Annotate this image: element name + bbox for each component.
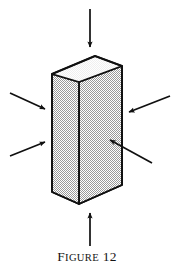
arrow-left-upper [10,93,45,109]
caption-label-rest: IGURE [65,252,99,263]
right-front-face [79,66,122,204]
figure-illustration [0,0,174,270]
caption-initial: F [57,249,65,264]
arrow-right-upper [129,96,170,112]
left-side-face [52,74,79,204]
rectangular-prism [52,56,122,204]
figure-caption: FIGURE 12 [0,248,174,264]
caption-number-value: 12 [103,249,117,264]
figure-container: FIGURE 12 [0,0,174,270]
arrow-left-lower [10,142,45,156]
